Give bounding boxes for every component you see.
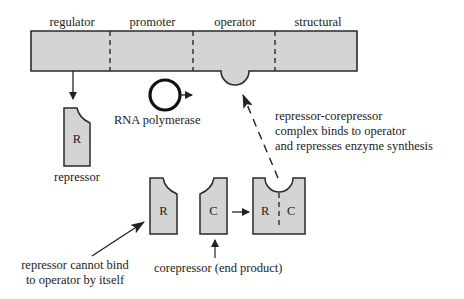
cannot-bind-line2: to operator by itself bbox=[12, 273, 138, 288]
segment-label-regulator: regulator bbox=[38, 15, 106, 30]
cannot-bind-line1: repressor cannot bind bbox=[12, 258, 138, 273]
segment-label-structural: structural bbox=[284, 15, 352, 30]
corepressor-label: corepressor (end product) bbox=[154, 261, 282, 276]
repressor-symbol: R bbox=[64, 132, 90, 147]
complex-annotation-line1: repressor-corepressor bbox=[275, 109, 382, 124]
complex-repressor-symbol: R bbox=[261, 204, 269, 219]
dna-bar bbox=[31, 31, 357, 85]
rna-polymerase-icon bbox=[150, 80, 180, 110]
complex-corepressor-symbol: C bbox=[287, 204, 295, 219]
cannot-bind-arrow bbox=[92, 222, 144, 256]
complex-to-operator-arrow bbox=[243, 95, 278, 178]
rna-polymerase-label: RNA polymerase bbox=[114, 113, 200, 128]
repressor-label: repressor bbox=[40, 170, 114, 185]
complex-annotation-line3: and represses enzyme synthesis bbox=[275, 139, 433, 154]
corepressor-symbol: C bbox=[200, 204, 227, 219]
complex-annotation-line2: complex binds to operator bbox=[275, 124, 406, 139]
segment-label-promoter: promoter bbox=[115, 15, 190, 30]
free-repressor-symbol: R bbox=[150, 204, 177, 219]
segment-label-operator: operator bbox=[200, 15, 270, 30]
